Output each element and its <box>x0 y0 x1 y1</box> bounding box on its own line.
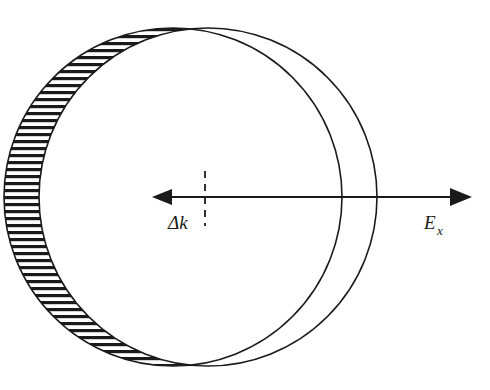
field-label-e-subscript: x <box>436 223 443 238</box>
field-label-e: E <box>423 212 436 233</box>
fermi-sphere-diagram: Δk E x <box>0 0 490 390</box>
hatched-lune-region <box>0 0 490 390</box>
figure-container: Δk E x <box>0 0 490 390</box>
delta-k-label: Δk <box>167 212 188 233</box>
